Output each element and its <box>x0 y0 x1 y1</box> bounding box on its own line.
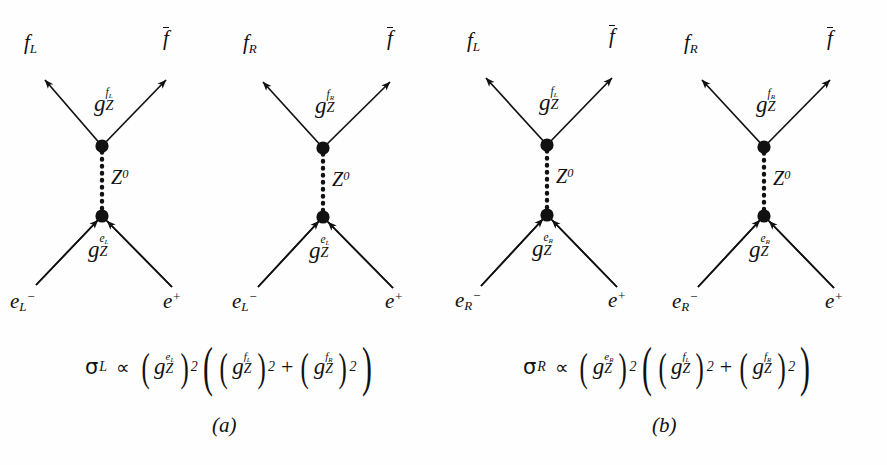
formula-right-factor1: geRZ <box>593 354 605 380</box>
diagram-b1-upper-coupling-label: gfLZ <box>539 91 551 114</box>
formula-left-term2: gfRZ <box>314 354 326 380</box>
diagram-b1-incoming-left-label: eR− <box>455 289 481 312</box>
diagram-a1-outgoing-right-label: f <box>163 28 169 49</box>
diagram-a1-incoming-right-label: e+ <box>163 290 181 312</box>
diagram-a1-incoming-left-label: eL− <box>10 290 35 313</box>
formula-left-operator: + <box>281 354 293 380</box>
diagram-b2-propagator-label: Z0 <box>773 168 790 188</box>
diagram-b1-incoming-right-label: e+ <box>608 289 626 311</box>
diagram-a2-lower-coupling-label: geLZ <box>309 239 321 262</box>
diagram-a2-propagator-label: Z0 <box>332 169 349 189</box>
formula-right-term2: gfRZ <box>753 354 765 380</box>
panel-label-b: (b) <box>652 413 677 438</box>
diagram-b2-incoming-left-label: eR− <box>672 290 698 313</box>
diagram-a2-incoming-right-label: e+ <box>385 290 403 312</box>
diagram-a1-propagator-label: Z0 <box>111 167 128 187</box>
proportional-symbol-left: ∝ <box>116 356 130 378</box>
diagram-b1-lower-coupling-label: geRZ <box>532 237 544 260</box>
diagram-b2-upper-coupling-label: gfRZ <box>756 93 768 116</box>
diagram-a2-incoming-left-label: eL− <box>232 290 257 313</box>
diagram-b2-outgoing-right-label: f <box>827 28 833 49</box>
feynman-line-layer <box>0 0 887 465</box>
diagram-a2-outgoing-left-label: fR <box>243 32 257 55</box>
cross-section-formula-left: σL ∝ ( geLZ )2 ( ( gfLZ )2 + ( gfRZ )2 ) <box>85 348 376 387</box>
figure-canvas: fL f gfLZ Z0 geLZ eL− e+ fR f gfRZ Z0 ge… <box>0 0 887 465</box>
diagram-a2-upper-coupling-label: gfRZ <box>315 94 327 117</box>
diagram-a1-upper-coupling-label: gfLZ <box>94 92 106 115</box>
formula-left-factor1: geLZ <box>154 354 166 380</box>
formula-left-term1: gfLZ <box>232 354 244 380</box>
formula-right-term1: gfLZ <box>671 354 683 380</box>
panel-label-a: (a) <box>212 413 237 438</box>
sigma-symbol-left: σ <box>85 355 98 379</box>
diagram-b2-lower-coupling-label: geRZ <box>749 238 761 261</box>
diagram-a1-lower-coupling-label: geLZ <box>88 238 100 261</box>
diagram-b2-incoming-right-label: e+ <box>825 290 843 312</box>
formula-right-operator: + <box>720 354 732 380</box>
proportional-symbol-right: ∝ <box>555 356 569 378</box>
sigma-subscript-right: R <box>537 359 546 375</box>
cross-section-formula-right: σR ∝ ( geRZ )2 ( ( gfLZ )2 + ( gfRZ )2 ) <box>523 348 814 387</box>
diagram-b1-outgoing-right-label: f <box>609 26 615 47</box>
sigma-symbol-right: σ <box>523 355 536 379</box>
sigma-subscript-left: L <box>99 359 107 375</box>
diagram-b1-outgoing-left-label: fL <box>467 30 480 53</box>
diagram-b2-outgoing-left-label: fR <box>684 32 698 55</box>
diagram-b1-propagator-label: Z0 <box>556 166 573 186</box>
diagram-a1-outgoing-left-label: fL <box>24 32 37 55</box>
diagram-a2-outgoing-right-label: f <box>387 28 393 49</box>
